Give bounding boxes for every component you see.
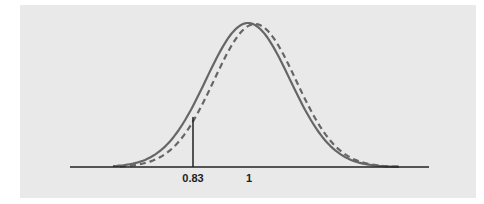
solid-curve bbox=[113, 23, 399, 167]
dashed-curve bbox=[120, 24, 400, 167]
tick-label-0.83: 0.83 bbox=[182, 172, 203, 184]
tick-label-1: 1 bbox=[246, 172, 252, 184]
normal-curves-chart: 0.83 1 bbox=[0, 0, 484, 204]
